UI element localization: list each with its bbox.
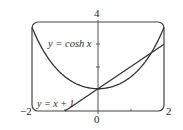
x-zero-label: 0 — [94, 113, 100, 125]
x-max-label: 2 — [166, 105, 172, 117]
x-min-label: −2 — [20, 105, 32, 117]
cosh-label: y = cosh x — [47, 38, 92, 49]
chart: y = cosh x y = x + 1 −2 0 2 4 — [0, 0, 183, 130]
y-max-label: 4 — [94, 7, 100, 19]
line-label: y = x + 1 — [36, 98, 74, 109]
linear-line — [65, 44, 164, 111]
